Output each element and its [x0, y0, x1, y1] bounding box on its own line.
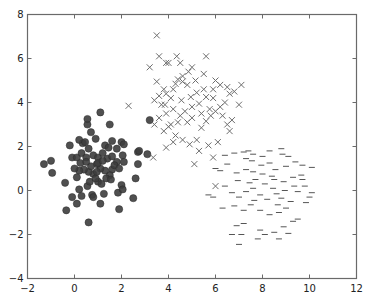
circle-marker: [119, 186, 126, 193]
circle-marker: [109, 137, 116, 144]
x-tick-label: 4: [165, 283, 171, 294]
circle-marker: [93, 168, 100, 175]
y-tick-label: 4: [17, 97, 23, 108]
x-tick-label: 12: [350, 283, 363, 294]
circle-marker: [90, 194, 97, 201]
circle-marker: [130, 195, 137, 202]
x-tick-label: 8: [259, 283, 265, 294]
circle-marker: [97, 200, 104, 207]
x-tick-label: 6: [212, 283, 218, 294]
circle-marker: [76, 186, 83, 193]
circle-marker: [98, 180, 105, 187]
circle-marker: [97, 109, 104, 116]
figure-background: [0, 0, 372, 304]
circle-marker: [84, 115, 91, 122]
circle-marker: [99, 157, 106, 164]
y-tick-label: −4: [9, 273, 24, 284]
x-tick-label: −2: [20, 283, 35, 294]
scatter-chart: −2024681012 −4−202468: [0, 0, 372, 304]
circle-marker: [116, 165, 123, 172]
circle-marker: [132, 175, 139, 182]
circle-marker: [49, 169, 56, 176]
circle-marker: [120, 158, 127, 165]
circle-marker: [113, 145, 120, 152]
y-tick-label: 0: [17, 185, 23, 196]
circle-marker: [81, 139, 88, 146]
circle-marker: [78, 192, 85, 199]
circle-marker: [92, 175, 99, 182]
circle-marker: [83, 158, 90, 165]
circle-marker: [105, 144, 112, 151]
circle-marker: [119, 152, 126, 159]
circle-marker: [69, 194, 76, 201]
x-tick-label: 0: [71, 283, 77, 294]
circle-marker: [134, 161, 141, 168]
circle-marker: [116, 206, 123, 213]
circle-marker: [87, 129, 94, 136]
circle-marker: [120, 141, 127, 148]
circle-marker: [92, 135, 99, 142]
circle-marker: [136, 147, 143, 154]
circle-marker: [85, 145, 92, 152]
circle-marker: [100, 190, 107, 197]
y-tick-label: 6: [17, 53, 23, 64]
x-tick-label: 2: [118, 283, 124, 294]
circle-marker: [85, 219, 92, 226]
circle-marker: [107, 176, 114, 183]
circle-marker: [63, 207, 70, 214]
circle-marker: [106, 121, 113, 128]
circle-marker: [40, 161, 47, 168]
circle-marker: [73, 200, 80, 207]
circle-marker: [71, 165, 78, 172]
x-tick-label: 10: [303, 283, 316, 294]
circle-marker: [73, 174, 80, 181]
circle-marker: [47, 157, 54, 164]
y-tick-label: 8: [17, 9, 23, 20]
circle-marker: [66, 142, 73, 149]
circle-marker: [62, 179, 69, 186]
circle-marker: [144, 151, 151, 158]
y-tick-label: −2: [9, 229, 24, 240]
circle-marker: [109, 153, 116, 160]
y-tick-label: 2: [17, 141, 23, 152]
